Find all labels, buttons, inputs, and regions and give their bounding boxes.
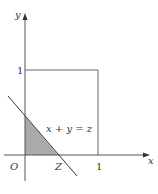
y-tick-one: 1 [17,65,23,76]
y-axis-label: y [14,9,21,20]
x-tick-one: 1 [96,161,102,172]
origin-label: O [10,161,18,172]
x-axis-label: x [148,155,154,166]
z-tick-label: Z [54,161,63,172]
diagram-canvas: y x O 1 1 Z x + y = z [0,0,158,194]
y-axis-arrow-icon [23,13,28,20]
line-equation-label: x + y = z [46,123,93,134]
line-x-plus-y-eq-z [8,96,77,176]
